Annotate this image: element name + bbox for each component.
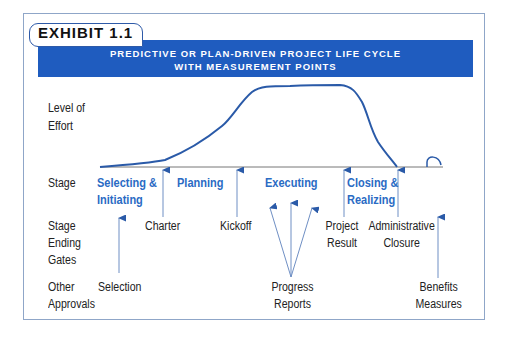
row-label-approvals: Other Approvals — [48, 279, 95, 312]
label-line: Effort — [48, 118, 85, 134]
gate-line: Project — [320, 218, 364, 234]
effort-curve — [100, 85, 397, 167]
label-line: Stage — [48, 218, 81, 234]
label-line: Approvals — [48, 296, 95, 312]
gate-administrative-closure: Administrative Closure — [362, 218, 441, 251]
stage-executing: Executing — [265, 175, 318, 191]
gate-kickoff: Kickoff — [220, 218, 252, 234]
row-label-gates: Stage Ending Gates — [48, 218, 81, 268]
stage-selecting-initiating: Selecting & Initiating — [97, 175, 157, 208]
title-line-2: WITH MEASUREMENT POINTS — [38, 61, 473, 72]
stage-closing-realizing: Closing & Realizing — [347, 175, 398, 208]
stage-line: Closing & — [347, 175, 398, 191]
progress-arrow-right — [291, 208, 312, 277]
stage-line: Initiating — [97, 192, 157, 208]
row-label-effort: Level of Effort — [48, 100, 85, 134]
progress-arrow-left — [270, 208, 291, 277]
label-line: Other — [48, 279, 95, 295]
stage-planning: Planning — [177, 175, 223, 191]
approval-line: Benefits — [414, 279, 463, 295]
row-label-stage: Stage — [48, 175, 76, 191]
approval-progress-reports: Progress Reports — [267, 279, 318, 312]
title-line-1: PREDICTIVE OR PLAN-DRIVEN PROJECT LIFE C… — [38, 48, 473, 59]
gate-line: Closure — [362, 235, 441, 251]
approval-selection: Selection — [98, 279, 141, 295]
label-line: Level of — [48, 100, 85, 116]
benefits-hump — [427, 157, 441, 167]
stage-line: Realizing — [347, 192, 398, 208]
exhibit-number: EXHIBIT 1.1 — [38, 23, 133, 43]
label-line: Gates — [48, 252, 81, 268]
gate-project-result: Project Result — [320, 218, 364, 251]
gate-line: Administrative — [362, 218, 441, 234]
approval-line: Progress — [267, 279, 318, 295]
stage-line: Selecting & — [97, 175, 157, 191]
approval-benefits-measures: Benefits Measures — [414, 279, 463, 312]
label-line: Ending — [48, 235, 81, 251]
approval-line: Reports — [267, 296, 318, 312]
gate-charter: Charter — [145, 218, 180, 234]
approval-line: Measures — [414, 296, 463, 312]
gate-line: Result — [320, 235, 364, 251]
